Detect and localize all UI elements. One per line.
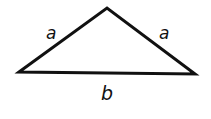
base-label: b — [101, 82, 113, 104]
triangle-diagram: a a b — [0, 0, 211, 119]
left-side-label: a — [46, 23, 56, 43]
right-side-label: a — [159, 23, 169, 43]
